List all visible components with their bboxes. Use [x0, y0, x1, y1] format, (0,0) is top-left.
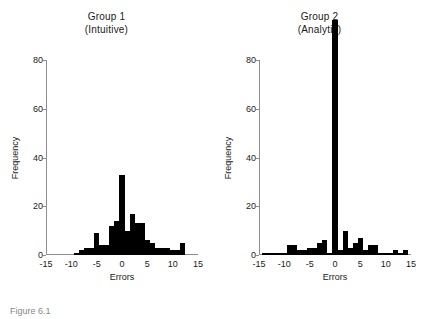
chart-title-group-2: Group 2 (Analytic) — [213, 11, 426, 36]
y-tick-label: 20 — [33, 202, 43, 211]
figure-caption: Figure 6.1 — [10, 306, 51, 316]
y-tick-label: 80 — [33, 56, 43, 65]
y-tick-mark — [43, 60, 46, 61]
chart-title-main: Group 1 — [88, 11, 126, 22]
chart-title-sub: (Analytic) — [213, 24, 426, 37]
x-tick-label: 5 — [358, 260, 363, 269]
y-axis-label: Frequency — [222, 60, 234, 255]
x-axis-label: Errors — [46, 272, 198, 282]
y-tick-mark — [43, 158, 46, 159]
chart-title-sub: (Intuitive) — [0, 24, 213, 37]
x-tick-label: -5 — [93, 260, 101, 269]
x-tick-label: -15 — [252, 260, 265, 269]
x-tick-label: 10 — [168, 260, 178, 269]
x-tick-label: 0 — [119, 260, 124, 269]
panel-group-2: Group 2 (Analytic) Frequency 020406080 -… — [213, 0, 426, 300]
y-tick-label: 20 — [246, 202, 256, 211]
chart-title-group-1: Group 1 (Intuitive) — [0, 11, 213, 36]
y-tick-mark — [256, 158, 259, 159]
y-tick-mark — [256, 206, 259, 207]
y-tick-mark — [43, 109, 46, 110]
x-tick-label: 15 — [193, 260, 203, 269]
y-axis-label: Frequency — [9, 60, 21, 255]
y-tick-label: 40 — [33, 153, 43, 162]
x-tick-label: 15 — [406, 260, 416, 269]
y-tick-mark — [256, 60, 259, 61]
bar-series-group-1 — [46, 60, 198, 255]
y-tick-label: 60 — [246, 104, 256, 113]
x-tick-label: -5 — [306, 260, 314, 269]
y-tick-label: 60 — [33, 104, 43, 113]
x-tick-label: -10 — [278, 260, 291, 269]
x-tick-label: 5 — [145, 260, 150, 269]
bar-series-group-2 — [259, 60, 411, 255]
panel-group-1: Group 1 (Intuitive) Frequency 020406080 … — [0, 0, 213, 300]
x-tick-label: 10 — [381, 260, 391, 269]
y-tick-label: 80 — [246, 56, 256, 65]
bar — [403, 250, 408, 255]
y-tick-mark — [256, 255, 259, 256]
x-axis-label: Errors — [259, 272, 411, 282]
x-tick-label: -10 — [65, 260, 78, 269]
x-tick-label: 0 — [332, 260, 337, 269]
y-tick-label: 40 — [246, 153, 256, 162]
figure-histograms: Group 1 (Intuitive) Frequency 020406080 … — [0, 0, 426, 319]
bar — [180, 243, 185, 255]
y-tick-mark — [256, 109, 259, 110]
y-tick-mark — [43, 206, 46, 207]
y-tick-mark — [43, 255, 46, 256]
bar — [332, 20, 337, 255]
x-tick-label: -15 — [39, 260, 52, 269]
plot-area-group-1: 020406080 -15-10-5051015 — [46, 60, 198, 255]
plot-area-group-2: 020406080 -15-10-5051015 — [259, 60, 411, 255]
